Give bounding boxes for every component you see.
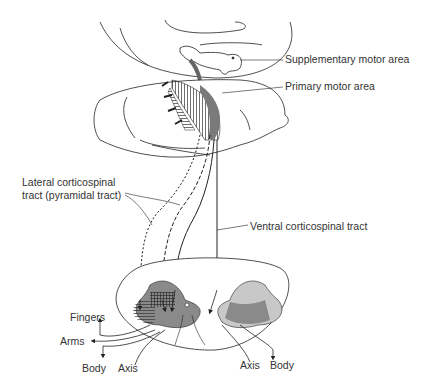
leader-lines bbox=[125, 60, 283, 230]
label-supplementary-motor-area: Supplementary motor area bbox=[285, 54, 409, 65]
label-body-left: Body bbox=[82, 363, 106, 374]
label-lateral-tract-line1: Lateral corticospinal bbox=[22, 177, 115, 188]
sma-strip bbox=[190, 60, 200, 80]
label-body-right: Body bbox=[270, 360, 294, 371]
label-fingers: Fingers bbox=[70, 312, 105, 323]
label-axis-left: Axis bbox=[118, 363, 138, 374]
label-primary-motor-area: Primary motor area bbox=[285, 81, 375, 92]
supplementary-homunculus bbox=[180, 46, 242, 74]
label-lateral-tract-line2: tract (pyramidal tract) bbox=[22, 190, 121, 201]
primary-motor-strip bbox=[162, 80, 220, 140]
label-axis-right: Axis bbox=[240, 360, 260, 371]
spinal-cord-section bbox=[116, 258, 289, 350]
label-arms: Arms bbox=[60, 336, 85, 347]
label-ventral-tract: Ventral corticospinal tract bbox=[250, 221, 367, 232]
